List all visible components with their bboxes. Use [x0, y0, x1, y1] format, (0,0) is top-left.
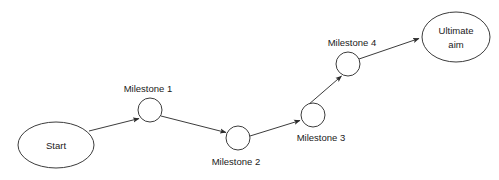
node-ultimate-aim-label-line2: aim	[448, 39, 463, 50]
node-milestone2-label: Milestone 2	[212, 156, 261, 167]
milestone-flowchart: Start Milestone 1 Milestone 2 Milestone …	[0, 0, 499, 180]
node-ultimate-aim-label-line1: Ultimate	[439, 25, 474, 36]
edge-start-to-milestone1	[89, 119, 139, 132]
node-milestone2[interactable]	[226, 126, 250, 150]
edge-milestone1-to-milestone2	[161, 116, 226, 133]
node-milestone4-label: Milestone 4	[328, 37, 377, 48]
node-ultimate-aim[interactable]	[422, 12, 490, 62]
edge-milestone2-to-milestone3	[250, 121, 300, 137]
diagram-canvas: Start Milestone 1 Milestone 2 Milestone …	[0, 0, 499, 180]
node-milestone4[interactable]	[336, 52, 360, 76]
node-milestone3[interactable]	[301, 103, 325, 127]
node-milestone1-label: Milestone 1	[124, 83, 173, 94]
node-milestone3-label: Milestone 3	[297, 132, 346, 143]
edge-milestone3-to-milestone4	[308, 76, 342, 105]
node-start-label: Start	[46, 140, 66, 151]
node-milestone1[interactable]	[138, 98, 162, 122]
